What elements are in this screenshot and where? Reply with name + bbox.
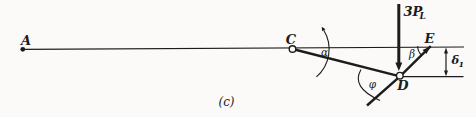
deflection-diagram-figure: A C E D 3P L α β φ δ 1 (c) [0,0,476,117]
hinge-c [289,46,296,53]
force-arrowhead-icon [395,63,402,72]
delta1-dimension-subscript: 1 [459,59,465,69]
force-label-subscript: L [419,11,426,21]
member-cd [293,49,401,76]
point-label-e: E [424,31,436,46]
point-label-c: C [286,32,297,47]
phi-angle-label: φ [369,78,377,90]
point-label-d: D [396,78,409,93]
delta1-arrow-up-icon [444,48,448,54]
deflection-diagram-canvas: A C E D 3P L α β φ δ 1 (c) [0,0,476,117]
point-label-a: A [19,33,31,48]
beta-angle-label: β [408,48,415,60]
figure-caption: (c) [218,95,234,109]
delta1-arrow-down-icon [444,70,448,76]
alpha-angle-label: α [321,46,328,58]
